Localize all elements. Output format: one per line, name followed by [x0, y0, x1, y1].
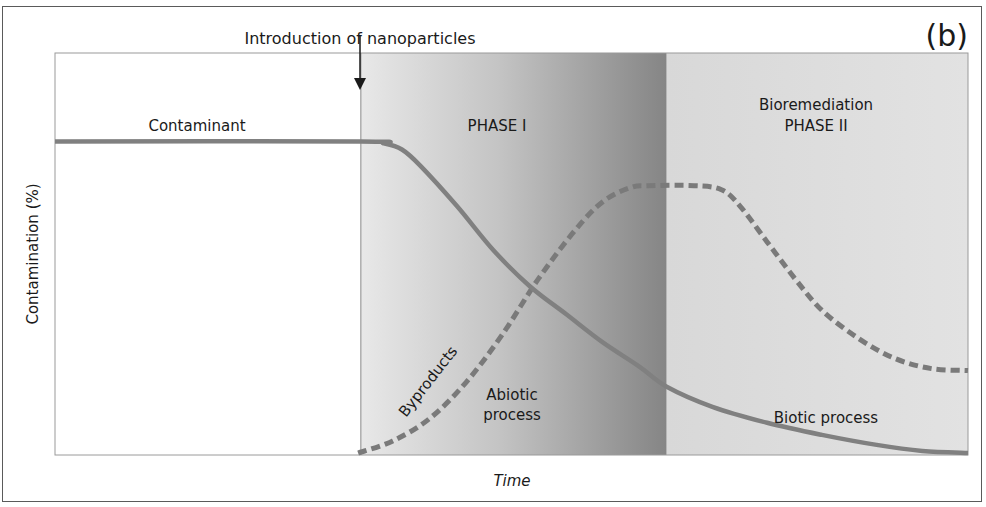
phase2-label-line2: PHASE II: [784, 117, 847, 135]
contaminant-label: Contaminant: [148, 117, 245, 135]
x-axis-label: Time: [493, 472, 530, 490]
phase1-label: PHASE I: [468, 117, 527, 135]
region-pre-treatment: [55, 53, 361, 455]
panel-label: (b): [926, 18, 968, 53]
abiotic-label-line2: process: [483, 406, 541, 424]
y-axis-label: Contamination (%): [24, 183, 42, 324]
remediation-diagram: Introduction of nanoparticles (b) Contam…: [0, 0, 986, 507]
phase2-label-line1: Bioremediation: [759, 96, 873, 114]
nanoparticle-annotation: Introduction of nanoparticles: [244, 29, 475, 48]
abiotic-label-line1: Abiotic: [486, 386, 537, 404]
biotic-label: Biotic process: [774, 409, 879, 427]
